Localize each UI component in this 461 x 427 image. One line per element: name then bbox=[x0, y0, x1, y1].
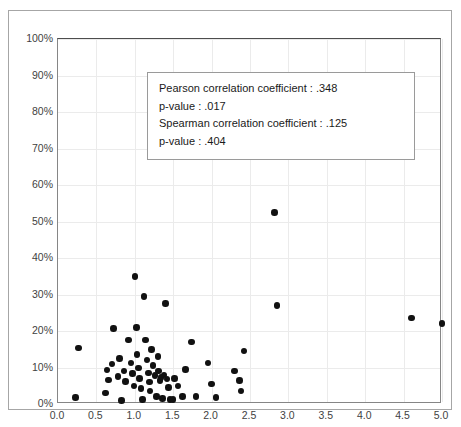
scatter-point bbox=[408, 315, 415, 322]
x-tick-label: 4.5 bbox=[383, 410, 423, 421]
y-tick-label: 70% bbox=[9, 142, 53, 153]
scatter-point bbox=[147, 388, 154, 395]
x-tick-label: 1.0 bbox=[114, 410, 154, 421]
scatter-point bbox=[148, 346, 155, 353]
scatter-point bbox=[105, 377, 112, 384]
x-axis-tick-labels: 0.00.51.01.52.02.53.03.54.04.55.0 bbox=[57, 410, 441, 426]
scatter-point bbox=[110, 325, 117, 332]
pearson-coefficient-text: Pearson correlation coefficient : .348 bbox=[159, 80, 414, 98]
y-tick-label: 80% bbox=[9, 106, 53, 117]
y-tick-label: 0% bbox=[9, 398, 53, 409]
scatter-point bbox=[236, 377, 243, 384]
scatter-point bbox=[145, 370, 152, 377]
scatter-point bbox=[121, 368, 128, 375]
scatter-point bbox=[162, 300, 169, 307]
scatter-point bbox=[146, 379, 153, 386]
x-tick-label: 1.5 bbox=[152, 410, 192, 421]
scatter-point bbox=[155, 353, 162, 360]
scatter-point bbox=[179, 393, 186, 400]
scatter-point bbox=[75, 345, 82, 352]
scatter-point bbox=[129, 370, 136, 377]
spearman-pvalue-text: p-value : .404 bbox=[159, 133, 414, 151]
y-tick-label: 20% bbox=[9, 325, 53, 336]
scatter-point bbox=[135, 365, 142, 372]
scatter-point bbox=[205, 360, 212, 367]
scatter-point bbox=[141, 293, 148, 300]
scatter-point bbox=[128, 360, 135, 367]
scatter-point bbox=[188, 339, 195, 346]
x-tick-label: 5.0 bbox=[421, 410, 461, 421]
pearson-pvalue-text: p-value : .017 bbox=[159, 98, 414, 116]
gridline-vertical bbox=[442, 39, 443, 402]
y-axis-tick-labels: 0%10%20%30%40%50%60%70%80%90%100% bbox=[9, 38, 53, 403]
scatter-point bbox=[104, 367, 111, 374]
scatter-point bbox=[115, 373, 122, 380]
scatter-point bbox=[133, 324, 140, 331]
y-tick-label: 90% bbox=[9, 69, 53, 80]
correlation-statistics-box: Pearson correlation coefficient : .348 p… bbox=[147, 72, 415, 160]
x-tick-label: 2.0 bbox=[191, 410, 231, 421]
scatter-point bbox=[231, 368, 238, 375]
x-tick-label: 0.5 bbox=[75, 410, 115, 421]
y-tick-label: 100% bbox=[9, 33, 53, 44]
scatter-point bbox=[142, 337, 149, 344]
figure-frame: 0%10%20%30%40%50%60%70%80%90%100% 0.00.5… bbox=[8, 10, 452, 410]
y-tick-label: 50% bbox=[9, 215, 53, 226]
scatter-point bbox=[125, 337, 132, 344]
x-tick-label: 3.0 bbox=[267, 410, 307, 421]
scatter-point bbox=[116, 355, 123, 362]
scatter-point bbox=[159, 395, 166, 402]
scatter-point bbox=[134, 351, 141, 358]
x-tick-label: 4.0 bbox=[344, 410, 384, 421]
scatter-point bbox=[132, 273, 139, 280]
scatter-point bbox=[139, 396, 146, 403]
scatter-point bbox=[109, 361, 116, 368]
x-tick-label: 3.5 bbox=[306, 410, 346, 421]
scatter-point bbox=[175, 383, 182, 390]
scatter-point bbox=[170, 396, 177, 403]
scatter-point bbox=[241, 348, 248, 355]
y-tick-label: 30% bbox=[9, 288, 53, 299]
scatter-point bbox=[208, 381, 215, 388]
scatter-point bbox=[164, 376, 171, 383]
scatter-point bbox=[182, 366, 189, 373]
scatter-point bbox=[213, 394, 220, 401]
x-tick-label: 2.5 bbox=[229, 410, 269, 421]
x-tick-label: 0.0 bbox=[37, 410, 77, 421]
y-tick-label: 40% bbox=[9, 252, 53, 263]
scatter-point bbox=[238, 388, 245, 395]
scatter-point bbox=[131, 383, 138, 390]
scatter-point bbox=[136, 375, 143, 382]
scatter-point bbox=[102, 390, 109, 397]
scatter-point bbox=[171, 375, 178, 382]
spearman-coefficient-text: Spearman correlation coefficient : .125 bbox=[159, 115, 414, 133]
y-tick-label: 10% bbox=[9, 361, 53, 372]
scatter-point bbox=[144, 357, 151, 364]
scatter-point bbox=[122, 378, 129, 385]
scatter-point bbox=[118, 397, 125, 404]
scatter-point bbox=[271, 209, 278, 216]
scatter-point bbox=[439, 320, 446, 327]
scatter-point bbox=[72, 394, 79, 401]
scatter-point bbox=[138, 385, 145, 392]
y-tick-label: 60% bbox=[9, 179, 53, 190]
scatter-point bbox=[274, 302, 281, 309]
scatter-point bbox=[193, 393, 200, 400]
scatter-point bbox=[165, 384, 172, 391]
